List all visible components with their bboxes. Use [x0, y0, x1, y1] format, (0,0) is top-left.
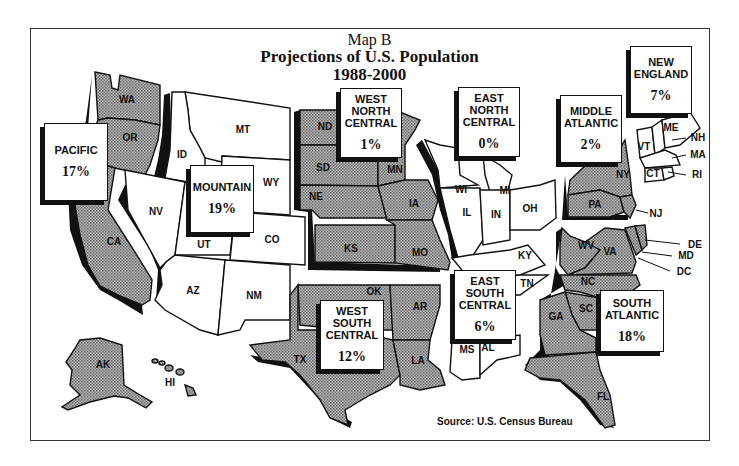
- region-name: NEW ENGLAND: [631, 56, 691, 80]
- label-ok: OK: [367, 286, 383, 297]
- label-wv: WV: [578, 240, 594, 251]
- label-wa: WA: [119, 94, 135, 105]
- label-dc: DC: [677, 266, 691, 277]
- region-percent: 0%: [459, 136, 519, 152]
- label-oh: OH: [523, 203, 538, 214]
- label-co: CO: [265, 234, 280, 245]
- label-nh: NH: [691, 132, 705, 143]
- region-name: MOUNTAIN: [191, 181, 253, 193]
- callout-east-north-central: EAST NORTH CENTRAL 0%: [458, 87, 520, 157]
- label-ar: AR: [413, 301, 428, 312]
- label-ia: IA: [409, 198, 419, 209]
- label-mt: MT: [236, 124, 250, 135]
- callout-middle-atlantic: MIDDLE ATLANTIC 2%: [560, 95, 622, 163]
- label-ma: MA: [690, 149, 706, 160]
- label-wi: WI: [455, 184, 467, 195]
- region-percent: 6%: [455, 319, 515, 335]
- callout-pacific: PACIFIC 17%: [44, 123, 108, 201]
- label-vt: VT: [638, 141, 651, 152]
- label-id: ID: [177, 149, 187, 160]
- label-sc: SC: [579, 303, 593, 314]
- label-ny: NY: [616, 169, 630, 180]
- label-nv: NV: [149, 206, 163, 217]
- region-percent: 2%: [561, 137, 621, 153]
- callout-south-atlantic: SOUTH ATLANTIC 18%: [600, 290, 664, 352]
- label-or: OR: [123, 132, 139, 143]
- label-tx: TX: [294, 354, 307, 365]
- region-name: WEST SOUTH CENTRAL: [321, 305, 383, 341]
- region-percent: 19%: [191, 201, 253, 217]
- label-nd: ND: [318, 121, 332, 132]
- label-al: AL: [481, 342, 494, 353]
- label-va: VA: [603, 246, 616, 257]
- label-ak: AK: [96, 359, 111, 370]
- us-map: WA OR CA AK HI MT ID WY NV UT CO AZ NM: [0, 0, 739, 466]
- region-name: EAST SOUTH CENTRAL: [455, 275, 515, 311]
- region-name: PACIFIC: [45, 144, 107, 156]
- label-md: MD: [678, 250, 694, 261]
- label-de: DE: [688, 239, 702, 250]
- label-ne: NE: [309, 191, 323, 202]
- label-mo: MO: [412, 247, 428, 258]
- label-mn: MN: [387, 164, 403, 175]
- state-ak: [62, 338, 152, 410]
- region-new-england: VT ME NH MA CT RI: [637, 112, 706, 182]
- label-la: LA: [411, 355, 424, 366]
- label-nm: NM: [246, 290, 262, 301]
- label-mi: MI: [499, 185, 510, 196]
- label-ca: CA: [107, 236, 121, 247]
- label-in: IN: [491, 209, 501, 220]
- region-percent: 18%: [601, 329, 663, 345]
- state-ar: [390, 285, 440, 340]
- state-nj: [620, 195, 636, 218]
- callout-west-south-central: WEST SOUTH CENTRAL 12%: [320, 300, 384, 370]
- label-hi: HI: [165, 377, 175, 388]
- state-mo: [387, 220, 450, 270]
- label-me: ME: [664, 122, 679, 133]
- callout-new-england: NEW ENGLAND 7%: [630, 46, 692, 114]
- region-percent: 12%: [321, 349, 383, 365]
- label-az: AZ: [186, 285, 199, 296]
- label-nj: NJ: [650, 208, 663, 219]
- label-fl: FL: [597, 391, 609, 402]
- label-il: IL: [463, 207, 472, 218]
- label-sd: SD: [316, 162, 330, 173]
- callout-east-south-central: EAST SOUTH CENTRAL 6%: [454, 270, 516, 340]
- label-ri: RI: [692, 169, 702, 180]
- region-percent: 1%: [341, 137, 401, 153]
- region-name: WEST NORTH CENTRAL: [341, 93, 401, 129]
- label-nc: NC: [581, 276, 595, 287]
- label-tn: TN: [520, 278, 533, 289]
- region-percent: 17%: [45, 164, 107, 180]
- callout-mountain: MOUNTAIN 19%: [190, 165, 254, 233]
- state-ri: [662, 167, 674, 180]
- state-ia: [378, 180, 438, 220]
- label-pa: PA: [588, 199, 601, 210]
- region-name: EAST NORTH CENTRAL: [459, 92, 519, 128]
- label-ga: GA: [549, 311, 564, 322]
- source-credit: Source: U.S. Census Bureau: [437, 416, 573, 427]
- label-ut: UT: [197, 239, 210, 250]
- label-ky: KY: [518, 250, 532, 261]
- region-name: MIDDLE ATLANTIC: [561, 105, 621, 129]
- label-ks: KS: [344, 243, 358, 254]
- label-wy: WY: [263, 177, 279, 188]
- callout-west-north-central: WEST NORTH CENTRAL 1%: [340, 88, 402, 158]
- label-ct: CT: [646, 168, 659, 179]
- region-percent: 7%: [631, 88, 691, 104]
- state-al: [480, 335, 520, 375]
- region-name: SOUTH ATLANTIC: [601, 297, 663, 321]
- label-ms: MS: [460, 344, 475, 355]
